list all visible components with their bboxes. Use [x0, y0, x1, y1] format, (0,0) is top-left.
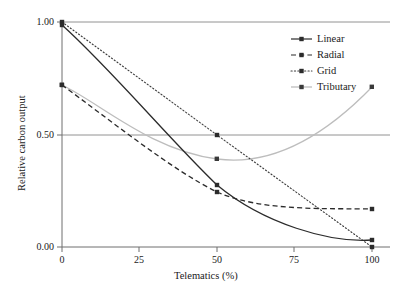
legend-label-tributary: Tributary	[317, 81, 356, 92]
series-linear-marker	[215, 183, 219, 187]
x-axis-title: Telematics (%)	[174, 270, 238, 281]
y-axis-title: Relative carbon output	[16, 95, 27, 191]
series-tributary-marker	[215, 157, 219, 161]
series-grid-marker	[370, 245, 374, 249]
x-tick-label-1: 25	[125, 254, 153, 265]
legend-label-grid: Grid	[317, 65, 336, 76]
series-linear-marker	[370, 238, 374, 242]
y-tick-label-2: 1.00	[22, 16, 54, 27]
x-tick-label-2: 50	[203, 254, 231, 265]
legend-label-linear: Linear	[317, 33, 344, 44]
series-linear-marker	[60, 23, 64, 27]
series-radial-marker	[370, 207, 374, 211]
x-tick-label-4: 100	[358, 254, 386, 265]
legend-label-radial: Radial	[317, 49, 344, 60]
series-tributary-marker	[370, 85, 374, 89]
series-grid-marker	[215, 133, 219, 137]
legend-sample-linear	[291, 37, 312, 41]
legend-sample-grid	[291, 69, 312, 73]
x-tick-label-3: 75	[280, 254, 308, 265]
series-tributary-line	[62, 85, 372, 160]
series-radial	[60, 83, 374, 211]
legend-samples	[291, 37, 312, 89]
chart-figure: 0.00 0.50 1.00 0 25 50 75 100 Telematics…	[0, 0, 408, 291]
x-tick-label-0: 0	[48, 254, 76, 265]
legend-sample-radial	[291, 53, 312, 57]
y-tick-marks	[57, 22, 62, 247]
y-tick-label-0: 0.00	[22, 241, 54, 252]
legend-sample-tributary	[291, 85, 312, 89]
x-tick-marks	[62, 247, 372, 252]
series-tributary	[60, 83, 374, 161]
series-radial-marker	[215, 190, 219, 194]
plot-canvas	[0, 0, 408, 291]
series-radial-marker	[60, 83, 64, 87]
